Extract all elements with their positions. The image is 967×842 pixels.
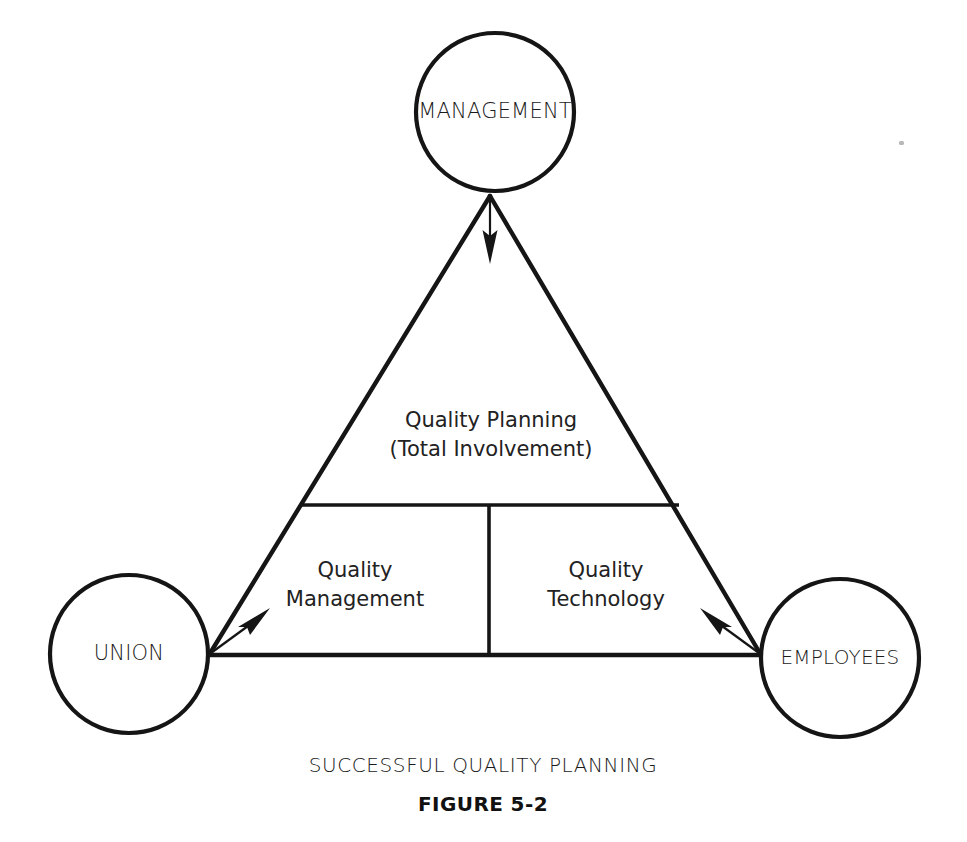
figure-container: MANAGEMENT UNION EMPLOYEES Quality Plann…	[0, 0, 967, 842]
arrow-from-management	[483, 200, 498, 264]
node-union[interactable]: UNION	[50, 575, 208, 733]
management-label: MANAGEMENT	[418, 99, 572, 123]
zone-quality-management: Quality Management	[286, 558, 424, 611]
figure-caption-title: SUCCESSFUL QUALITY PLANNING	[309, 753, 658, 777]
zone-quality-management-line1: Quality	[317, 558, 392, 582]
node-employees[interactable]: EMPLOYEES	[761, 579, 919, 737]
zone-quality-planning-line1: Quality Planning	[405, 408, 577, 432]
node-management[interactable]: MANAGEMENT	[416, 33, 574, 191]
quality-planning-diagram: MANAGEMENT UNION EMPLOYEES Quality Plann…	[0, 0, 967, 842]
scan-speck	[899, 141, 904, 145]
union-label: UNION	[94, 641, 165, 665]
zone-quality-technology: Quality Technology	[546, 558, 665, 611]
zone-quality-technology-line2: Technology	[546, 587, 665, 611]
zone-quality-management-line2: Management	[286, 587, 424, 611]
arrow-from-employees	[700, 608, 759, 653]
employees-label: EMPLOYEES	[780, 645, 899, 669]
zone-quality-technology-line1: Quality	[568, 558, 643, 582]
figure-caption-number: FIGURE 5-2	[418, 792, 548, 816]
zone-quality-planning: Quality Planning (Total Involvement)	[390, 408, 593, 461]
zone-quality-planning-line2: (Total Involvement)	[390, 437, 593, 461]
arrow-from-union	[211, 608, 270, 653]
